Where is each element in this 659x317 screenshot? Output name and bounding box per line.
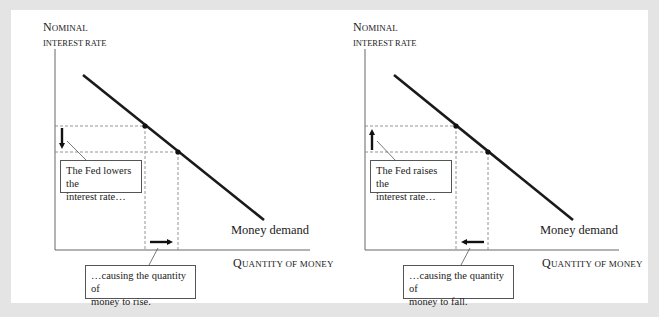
rate-callout-line1: The Fed lowers the — [66, 164, 136, 190]
quantity-callout-line1: …causing the quantity of — [91, 269, 190, 295]
x-axis-label: QUANTITY OF MONEY — [233, 256, 334, 271]
y-axis-label-line2: INTEREST RATE — [43, 38, 106, 49]
quantity-callout-box: …causing the quantity of money to fall. — [403, 265, 514, 299]
y-axis-label-line1: NOMINAL — [353, 22, 398, 34]
x-axis-label: QUANTITY OF MONEY — [542, 256, 643, 271]
callout-leader-rate — [377, 141, 395, 160]
y-axis-label-line2: INTEREST RATE — [353, 38, 416, 49]
equilibrium-point-2 — [485, 149, 490, 154]
money-demand-label: Money demand — [540, 223, 618, 238]
callout-leader-quantity — [461, 248, 470, 265]
rate-callout-line2: interest rate… — [376, 190, 446, 203]
rate-callout-box: The Fed raises the interest rate… — [370, 160, 452, 193]
quantity-callout-line2: money to fall. — [409, 295, 508, 308]
equilibrium-point-2 — [175, 149, 180, 154]
equilibrium-point-1 — [453, 123, 458, 128]
rate-callout-line2: interest rate… — [66, 190, 136, 203]
quantity-callout-box: …causing the quantity of money to rise. — [85, 265, 196, 299]
equilibrium-point-1 — [142, 123, 147, 128]
quantity-callout-line2: money to rise. — [91, 295, 190, 308]
y-axis-label-line1: NOMINAL — [43, 22, 88, 34]
rate-callout-box: The Fed lowers the interest rate… — [60, 160, 142, 193]
quantity-callout-line1: …causing the quantity of — [409, 269, 508, 295]
money-demand-label: Money demand — [231, 223, 309, 238]
rate-callout-line1: The Fed raises the — [376, 164, 446, 190]
callout-leader-quantity — [149, 248, 158, 265]
callout-leader-rate — [67, 141, 86, 160]
